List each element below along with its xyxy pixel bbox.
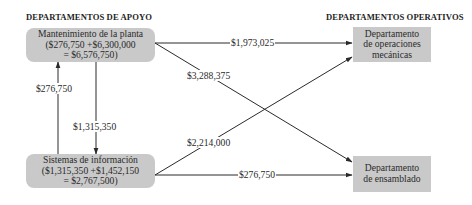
flow-arrow-maint-to-assembly: [155, 43, 352, 162]
flow-label-maint-to-mech: $1,973,025: [230, 37, 275, 48]
flow-label-maint-to-is: $1,315,350: [72, 121, 117, 132]
machining-department-line3: mecánicas: [372, 50, 412, 61]
flow-label-is-to-assembly: $276,750: [238, 169, 276, 180]
assembly-department-line2: de ensamblado: [363, 174, 420, 185]
plant-maintenance-box: Mantenimiento de la planta ($276,750 +$6…: [26, 28, 155, 62]
flow-arrow-is-to-mech: [155, 57, 352, 175]
flow-label-is-to-maint: $276,750: [35, 83, 73, 94]
plant-maintenance-total: = $6,576,750): [63, 50, 117, 61]
information-systems-total: = $2,767,500): [63, 176, 117, 187]
machining-department-box: Departamento de operaciones mecánicas: [353, 27, 431, 62]
flow-label-is-to-mech: $2,214,000: [186, 137, 231, 148]
flow-label-maint-to-assembly: $3,288,375: [186, 70, 231, 81]
assembly-department-box: Departamento de ensamblado: [353, 156, 431, 192]
information-systems-box: Sistemas de información ($1,315,350 +$1,…: [26, 154, 155, 188]
